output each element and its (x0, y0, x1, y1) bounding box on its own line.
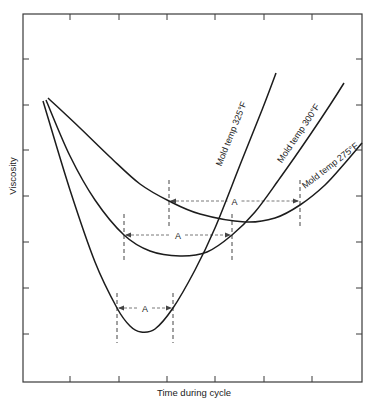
arrowhead-right-icon (293, 199, 299, 204)
curve-label: Mold temp 300°F (275, 102, 322, 165)
y-axis-label: Viscosity (7, 157, 18, 195)
interval-a-label: A (142, 304, 148, 314)
axis-ticks (23, 14, 362, 382)
interval-a-markers: AAA (117, 180, 300, 343)
plot-border (23, 14, 362, 382)
curve-label: Mold temp 275°F (300, 140, 361, 190)
interval-a-label: A (231, 197, 237, 207)
x-axis-label: Time during cycle (157, 387, 231, 398)
viscosity-time-chart: AAA Mold temp 325°FMold temp 300°FMold t… (0, 0, 373, 402)
arrowhead-left-icon (118, 306, 124, 311)
curve-300f (46, 83, 344, 256)
plot-frame (23, 14, 362, 382)
interval-a-label: A (175, 231, 181, 241)
